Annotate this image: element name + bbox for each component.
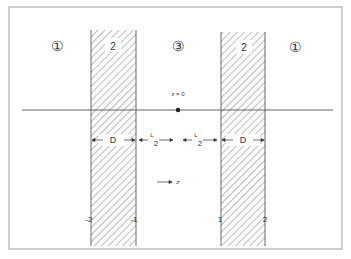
slab-width-left-label: D bbox=[110, 135, 117, 145]
slab-left-label: 2 bbox=[110, 41, 116, 52]
region-3-label: ③ bbox=[172, 38, 185, 54]
region-1-left-label: ① bbox=[51, 38, 64, 54]
region-1-right-label: ① bbox=[289, 39, 302, 55]
boundary-label-1: 1 bbox=[218, 215, 223, 224]
slab-width-right-label: D bbox=[240, 135, 247, 145]
gap-left-L-label: L bbox=[150, 132, 154, 138]
gap-left-sub-label: 2 bbox=[154, 139, 159, 148]
boundary-label-minus2: -2 bbox=[85, 215, 93, 224]
gap-right-L-label: L bbox=[194, 132, 198, 138]
gap-right-sub-label: 2 bbox=[198, 139, 203, 148]
slab-right-label: 2 bbox=[241, 42, 247, 53]
origin-dot bbox=[176, 108, 180, 112]
z-direction-arrow-icon bbox=[157, 181, 172, 184]
origin-label: z = 0 bbox=[171, 91, 185, 97]
slab-diagram: ① 2 ③ 2 ① z = 0 D L 2 L 2 D z -2 -1 1 2 bbox=[0, 0, 351, 259]
z-direction-label: z bbox=[176, 179, 180, 185]
boundary-label-2: 2 bbox=[263, 215, 268, 224]
boundary-label-minus1: -1 bbox=[130, 215, 138, 224]
